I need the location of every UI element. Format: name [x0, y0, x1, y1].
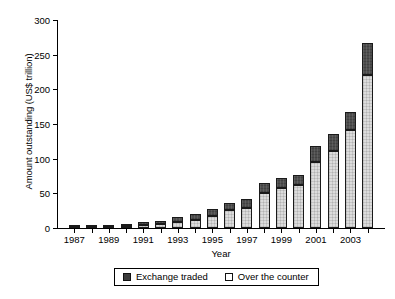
bar-2003	[345, 112, 356, 228]
bar-segment-exchange-traded	[259, 183, 270, 193]
bar-segment-exchange-traded	[172, 217, 183, 222]
bar-segment-over-the-counter	[172, 222, 183, 228]
x-tick	[109, 229, 110, 233]
x-tick-label: 1995	[202, 234, 223, 245]
legend-item-exchange-traded: Exchange traded	[123, 272, 208, 282]
y-tick-label: 0	[45, 223, 50, 234]
legend-item-over-the-counter: Over the counter	[225, 272, 309, 282]
bar-segment-over-the-counter	[190, 220, 201, 228]
bar-1993	[172, 217, 183, 228]
x-tick	[195, 229, 196, 233]
bar-1997	[241, 199, 252, 228]
bar-1988	[86, 225, 97, 228]
chart-figure: Amount outstanding (US$ trillion) 050100…	[0, 0, 395, 299]
bar-segment-exchange-traded	[362, 43, 373, 75]
x-tick	[178, 229, 179, 233]
x-tick	[74, 229, 75, 233]
x-tick	[143, 229, 144, 233]
y-tick	[53, 228, 57, 229]
x-tick-label: 1999	[271, 234, 292, 245]
bar-segment-over-the-counter	[224, 210, 235, 228]
bar-segment-over-the-counter	[138, 225, 149, 228]
y-tick	[53, 55, 57, 56]
y-tick	[53, 159, 57, 160]
bar-1996	[224, 203, 235, 228]
bar-segment-over-the-counter	[328, 151, 339, 228]
x-tick-label: 1991	[133, 234, 154, 245]
bar-segment-exchange-traded	[207, 209, 218, 215]
bar-segment-exchange-traded	[103, 225, 114, 227]
x-tick-label: 1993	[167, 234, 188, 245]
bar-1998	[259, 183, 270, 228]
bar-2002	[328, 134, 339, 228]
bar-segment-over-the-counter	[362, 75, 373, 228]
x-tick	[230, 229, 231, 233]
dark-square-icon	[123, 273, 131, 281]
bar-segment-exchange-traded	[293, 175, 304, 185]
bar-segment-over-the-counter	[276, 188, 287, 228]
bar-segment-exchange-traded	[328, 134, 339, 151]
y-tick	[53, 89, 57, 90]
bar-segment-exchange-traded	[224, 203, 235, 210]
x-tick	[92, 229, 93, 233]
bar-segment-over-the-counter	[121, 226, 132, 228]
x-tick	[368, 229, 369, 233]
x-tick-label: 2001	[305, 234, 326, 245]
bar-segment-over-the-counter	[293, 185, 304, 228]
x-tick	[264, 229, 265, 233]
bar-segment-over-the-counter	[207, 216, 218, 228]
x-axis-title: Year	[57, 248, 385, 259]
x-tick	[247, 229, 248, 233]
legend-label-over-the-counter: Over the counter	[238, 272, 309, 282]
plot-area: 050100150200250300 198719891991199319951…	[57, 20, 385, 228]
bar-segment-exchange-traded	[241, 199, 252, 208]
x-tick-label: 1987	[64, 234, 85, 245]
bar-segment-over-the-counter	[310, 162, 321, 228]
y-tick-label: 200	[34, 84, 50, 95]
bar-segment-over-the-counter	[155, 224, 166, 228]
x-axis-line	[57, 228, 385, 229]
y-axis-line	[57, 20, 58, 228]
bar-2001	[310, 146, 321, 229]
bar-segment-exchange-traded	[86, 225, 97, 227]
x-tick	[212, 229, 213, 233]
bar-segment-over-the-counter	[259, 193, 270, 228]
bar-segment-exchange-traded	[155, 221, 166, 224]
y-tick-label: 250	[34, 49, 50, 60]
bar-1995	[207, 209, 218, 228]
x-tick	[333, 229, 334, 233]
y-tick-label: 150	[34, 119, 50, 130]
chart-legend: Exchange traded Over the counter	[114, 268, 319, 286]
bar-1989	[103, 225, 114, 228]
x-tick-label: 1989	[98, 234, 119, 245]
bar-1994	[190, 214, 201, 228]
x-tick	[126, 229, 127, 233]
bar-1987	[69, 225, 80, 228]
bar-1990	[121, 224, 132, 228]
bar-segment-exchange-traded	[190, 214, 201, 220]
y-tick-label: 100	[34, 153, 50, 164]
x-tick-label: 1997	[236, 234, 257, 245]
y-tick-label: 50	[39, 188, 50, 199]
y-axis-title: Amount outstanding (US$ trillion)	[23, 22, 34, 222]
bar-segment-exchange-traded	[276, 178, 287, 187]
y-tick	[53, 193, 57, 194]
y-tick-label: 300	[34, 15, 50, 26]
bar-1999	[276, 178, 287, 228]
y-tick	[53, 20, 57, 21]
bar-segment-exchange-traded	[138, 222, 149, 224]
bar-segment-exchange-traded	[345, 112, 356, 130]
legend-label-exchange-traded: Exchange traded	[136, 272, 208, 282]
bar-2000	[293, 175, 304, 228]
x-tick-label: 2003	[340, 234, 361, 245]
x-tick	[299, 229, 300, 233]
bar-2004	[362, 43, 373, 228]
bar-segment-exchange-traded	[121, 224, 132, 226]
x-tick	[161, 229, 162, 233]
x-tick	[316, 229, 317, 233]
x-tick	[350, 229, 351, 233]
bar-segment-over-the-counter	[345, 130, 356, 228]
y-tick	[53, 124, 57, 125]
bar-segment-exchange-traded	[69, 225, 80, 227]
x-tick	[281, 229, 282, 233]
